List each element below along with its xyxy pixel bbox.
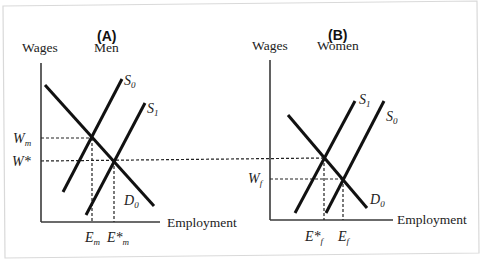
- panel-a-x-axis-label: Employment: [167, 215, 237, 230]
- panel-b-y-axis-label: Wages: [252, 38, 288, 53]
- panel-b-group-label: Women: [317, 38, 359, 53]
- panel-a-y-axis-label: Wages: [22, 40, 58, 55]
- labor-market-diagram: (A) Wages Men Employment S0 S1 D0 Wm W* …: [0, 0, 483, 261]
- panel-a-group-label: Men: [94, 40, 119, 55]
- panel-b-x-axis-label: Employment: [397, 212, 467, 227]
- wstar-label: W*: [12, 154, 31, 169]
